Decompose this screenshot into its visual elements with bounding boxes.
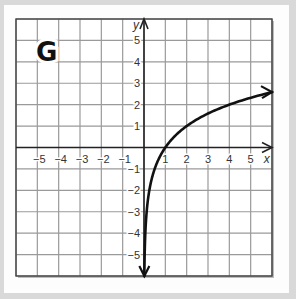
y-tick-label: 4 xyxy=(134,56,140,68)
x-tick-label: 5 xyxy=(248,153,254,165)
y-tick-label: −2 xyxy=(127,184,140,196)
y-tick-label: −4 xyxy=(127,227,140,239)
x-tick-label: 4 xyxy=(226,153,232,165)
y-tick-label: 2 xyxy=(134,99,140,111)
x-tick-label: −5 xyxy=(33,153,46,165)
y-tick-label: −1 xyxy=(127,163,140,175)
y-axis-label: y xyxy=(132,18,140,32)
y-tick-label: 1 xyxy=(134,120,140,132)
x-tick-label: 3 xyxy=(205,153,211,165)
y-tick-label: 3 xyxy=(134,77,140,89)
x-tick-label: −4 xyxy=(54,153,67,165)
x-axis-label: x xyxy=(263,152,271,166)
panel-label: G xyxy=(36,37,57,67)
coordinate-grid: −5−4−3−2−11234554321−1−2−3−4−5xyG xyxy=(0,0,296,299)
x-tick-label: 2 xyxy=(184,153,190,165)
x-tick-label: −2 xyxy=(97,153,110,165)
y-tick-label: 5 xyxy=(134,34,140,46)
y-tick-label: −5 xyxy=(127,249,140,261)
x-tick-label: 1 xyxy=(162,153,168,165)
y-tick-label: −3 xyxy=(127,206,140,218)
x-tick-label: −3 xyxy=(76,153,89,165)
